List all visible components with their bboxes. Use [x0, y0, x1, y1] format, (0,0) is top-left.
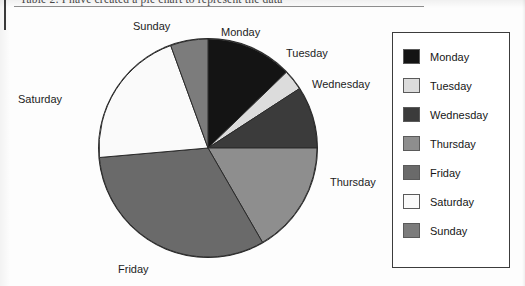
legend-label-tuesday: Tuesday — [430, 80, 472, 92]
legend-label-thursday: Thursday — [430, 138, 476, 150]
legend-label-saturday: Saturday — [430, 196, 474, 208]
legend-item-wednesday: Wednesday — [403, 100, 509, 129]
scanned-page: Table 2: I have created a pie chart to r… — [0, 0, 525, 286]
table-caption: Table 2: I have created a pie chart to r… — [20, 0, 440, 7]
legend-swatch-wednesday — [403, 107, 420, 122]
legend-label-sunday: Sunday — [430, 225, 467, 237]
legend-label-monday: Monday — [430, 51, 469, 63]
legend-swatch-thursday — [403, 136, 420, 151]
legend-item-saturday: Saturday — [403, 187, 509, 216]
legend-swatch-tuesday — [403, 78, 420, 93]
legend-swatch-saturday — [403, 194, 420, 209]
legend-item-thursday: Thursday — [403, 129, 509, 158]
legend-label-wednesday: Wednesday — [430, 109, 488, 121]
legend-item-tuesday: Tuesday — [403, 71, 509, 100]
legend-label-friday: Friday — [430, 167, 461, 179]
pie-graphic — [98, 38, 318, 258]
pie-label-saturday: Saturday — [18, 93, 62, 105]
pie-label-thursday: Thursday — [330, 176, 376, 188]
pie-label-wednesday: Wednesday — [312, 78, 370, 90]
chart-legend: MondayTuesdayWednesdayThursdayFridaySatu… — [392, 32, 510, 268]
pie-svg — [98, 38, 318, 258]
legend-swatch-monday — [403, 49, 420, 64]
legend-item-friday: Friday — [403, 158, 509, 187]
legend-item-sunday: Sunday — [403, 216, 509, 245]
pie-chart — [98, 38, 318, 258]
legend-swatch-friday — [403, 165, 420, 180]
pie-label-friday: Friday — [118, 263, 149, 275]
legend-swatch-sunday — [403, 223, 420, 238]
pie-label-sunday: Sunday — [133, 20, 170, 32]
page-edge-artifact — [4, 0, 6, 30]
legend-item-monday: Monday — [403, 42, 509, 71]
pie-label-tuesday: Tuesday — [286, 47, 328, 59]
pie-label-monday: Monday — [221, 26, 260, 38]
